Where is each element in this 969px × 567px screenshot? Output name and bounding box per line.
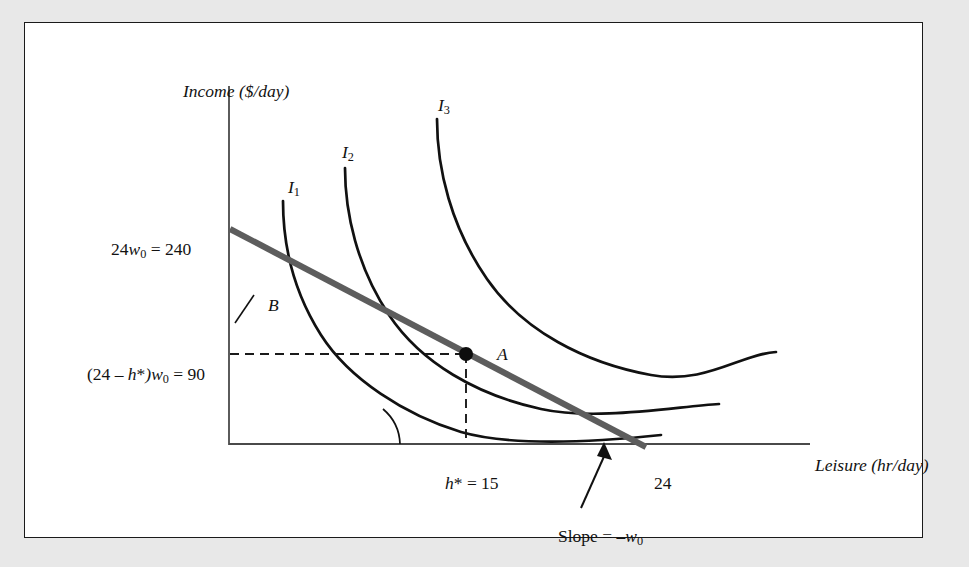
curve-i3 (437, 119, 776, 377)
axis-lines (229, 86, 810, 445)
point-b-label: B (268, 295, 279, 316)
budget-line (230, 229, 646, 447)
curve-i3-index: 3 (444, 103, 450, 117)
optimal-income-label: (24 – h*)w0 = 90 (87, 364, 205, 387)
optimal-income-open: (24 – (87, 364, 128, 384)
slope-wage-symbol: w (625, 526, 637, 546)
plot-canvas (25, 23, 924, 539)
figure-root: Income ($/day) Leisure (hr/day) 24w0 = 2… (0, 0, 969, 567)
slope-text: Slope = – (558, 526, 625, 546)
slope-angle-arc (383, 409, 400, 444)
curve-label-i1: I1 (288, 177, 300, 200)
budget-intercept-label: 24w0 = 240 (111, 239, 191, 262)
point-a-label: A (497, 344, 508, 365)
optimal-leisure-label: h* = 15 (445, 473, 499, 494)
optimal-leisure-value: * = 15 (454, 473, 499, 493)
point-b-leader-line (235, 295, 254, 323)
budget-intercept-wage-symbol: w (129, 239, 141, 259)
y-axis-title: Income ($/day) (183, 81, 289, 102)
point-a-marker (459, 347, 473, 361)
slope-label: Slope = –w0 (558, 526, 643, 549)
curve-i1-index: 1 (294, 185, 300, 199)
optimal-income-equals: = 90 (169, 364, 205, 384)
curve-label-i2: I2 (342, 142, 354, 165)
slope-arrow (581, 442, 612, 508)
optimal-leisure-hours-symbol: h (445, 473, 454, 493)
figure-frame: Income ($/day) Leisure (hr/day) 24w0 = 2… (24, 22, 923, 538)
curve-label-i3: I3 (438, 95, 450, 118)
budget-intercept-equals: = 240 (146, 239, 191, 259)
budget-intercept-value: 24 (111, 239, 129, 259)
optimal-income-hours-symbol: h (128, 364, 137, 384)
curve-i2-index: 2 (348, 150, 354, 164)
total-hours-label: 24 (654, 473, 672, 494)
slope-wage-subscript: 0 (637, 534, 643, 548)
optimal-income-mid: )w (145, 364, 163, 384)
curve-i1 (283, 201, 661, 442)
x-axis-title: Leisure (hr/day) (815, 455, 929, 476)
